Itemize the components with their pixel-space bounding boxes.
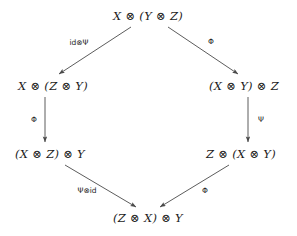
arrow-top-to-middle-right <box>168 27 238 74</box>
arrow-label-top-to-middle-left: id⊗Ψ <box>69 38 88 47</box>
arrow-label-middle-left-to-lower-left: Φ <box>31 115 37 124</box>
arrow-lower-left-to-bottom <box>65 165 136 207</box>
arrow-top-to-middle-left <box>59 27 131 74</box>
arrow-label-lower-left-to-bottom: Ψ⊗id <box>77 186 96 195</box>
node-middle-right: (X ⊗ Y) ⊗ Z <box>209 79 279 93</box>
arrow-label-lower-right-to-bottom: Φ <box>202 186 208 195</box>
arrow-label-top-to-middle-right: Φ <box>208 37 214 46</box>
node-lower-right: Z ⊗ (X ⊗ Y) <box>206 147 276 161</box>
arrow-label-middle-right-to-lower-right: Ψ <box>258 115 264 124</box>
commutative-diagram: X ⊗ (Y ⊗ Z) X ⊗ (Z ⊗ Y) (X ⊗ Y) ⊗ Z (X ⊗… <box>0 0 297 236</box>
node-lower-left: (X ⊗ Z) ⊗ Y <box>15 147 85 161</box>
node-bottom: (Z ⊗ X) ⊗ Y <box>113 211 183 225</box>
diagram-arrows-layer <box>0 0 297 236</box>
node-top: X ⊗ (Y ⊗ Z) <box>113 9 183 23</box>
arrow-lower-right-to-bottom <box>160 165 229 207</box>
node-middle-left: X ⊗ (Z ⊗ Y) <box>18 79 88 93</box>
